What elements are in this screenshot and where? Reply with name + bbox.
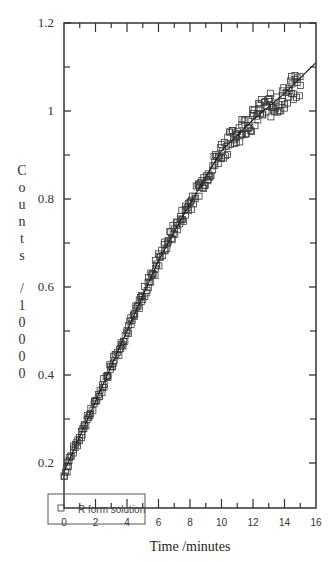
y-tick-label: 0.8 — [38, 191, 54, 206]
y-tick-label: 0.4 — [38, 367, 55, 382]
legend-label: R form solution — [78, 504, 145, 515]
y-tick-label: 1 — [48, 103, 55, 118]
x-tick-label: 2 — [93, 517, 99, 528]
y-tick-label: 1.2 — [38, 15, 54, 30]
y-label-char: o — [19, 180, 26, 195]
x-tick-label: 12 — [247, 517, 259, 528]
y-label-char: 0 — [19, 332, 26, 347]
y-label-char: 1 — [19, 298, 26, 313]
y-label-char: 0 — [19, 315, 26, 330]
x-tick-label: 0 — [61, 517, 67, 528]
y-label-char: t — [20, 231, 24, 246]
data-point-square — [196, 193, 202, 199]
fit-curve — [64, 63, 316, 472]
x-tick-label: 10 — [216, 517, 228, 528]
x-tick-label: 16 — [310, 517, 322, 528]
x-tick-label: 4 — [124, 517, 130, 528]
y-label-char: u — [19, 197, 26, 212]
y-tick-label: 0.6 — [38, 279, 55, 294]
plot-frame — [64, 23, 316, 508]
y-label-char: n — [19, 214, 26, 229]
x-tick-label: 14 — [279, 517, 291, 528]
y-label-char: / — [20, 281, 24, 296]
scatter-chart: Counts/10000 0.20.40.60.811.2 0246810121… — [0, 0, 335, 562]
x-axis-label: Time /minutes — [150, 539, 231, 554]
data-points — [61, 72, 303, 479]
x-tick-label: 8 — [187, 517, 193, 528]
y-label-char: 0 — [19, 349, 26, 364]
y-label-char: C — [17, 163, 26, 178]
y-tick-label: 0.2 — [38, 455, 54, 470]
y-axis-ticks: 0.20.40.60.811.2 — [38, 15, 316, 470]
y-label-char: 0 — [19, 366, 26, 381]
y-label-char: s — [19, 248, 24, 263]
x-tick-label: 6 — [156, 517, 162, 528]
y-axis-label: Counts/10000 — [17, 163, 26, 381]
legend-marker-square-icon — [58, 505, 64, 511]
